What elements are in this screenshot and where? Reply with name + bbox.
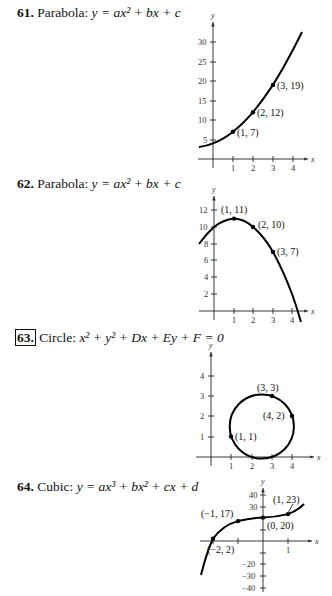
y-tick-label: 15 — [198, 96, 207, 106]
x-tick-label: 3 — [270, 461, 274, 471]
y-tick-label: 8 — [204, 239, 208, 249]
data-point — [251, 225, 255, 229]
point-label: (3, 3) — [257, 382, 279, 394]
graph-63: x y 1 2 3 4 1 2 3 4 (1, 1) (3, 3) (4, 2) — [196, 341, 321, 471]
data-point — [211, 537, 215, 541]
x-tick-label: 1 — [229, 461, 233, 471]
graph-64: x y 1 40 30 −20 −30 −40 (−1, 17) (1, 23)… — [200, 477, 319, 593]
y-tick-label: 2 — [204, 289, 208, 299]
y-axis-label: y — [211, 185, 216, 194]
point-label: (−2, 2) — [207, 544, 234, 556]
y-tick-label: 4 — [204, 272, 209, 282]
y-tick-label: 40 — [249, 490, 258, 500]
data-point — [271, 83, 275, 87]
x-tick-label: 4 — [290, 315, 295, 325]
y-tick-label: 30 — [198, 37, 207, 47]
y-tick-label: 10 — [198, 115, 207, 125]
y-axis-label: y — [208, 341, 213, 350]
point-label: (1, 23) — [273, 494, 300, 506]
data-point — [229, 434, 233, 438]
data-point — [232, 216, 236, 220]
y-tick-label: −40 — [242, 583, 255, 593]
data-point — [271, 250, 275, 254]
y-tick-label: 30 — [249, 502, 258, 512]
x-tick-label: 1 — [231, 163, 235, 173]
point-label: (2, 10) — [258, 219, 285, 231]
y-tick-label: −30 — [242, 571, 255, 581]
x-tick-label: 4 — [291, 163, 296, 173]
data-point — [270, 394, 274, 398]
x-tick-label: 3 — [271, 163, 275, 173]
y-tick-label: 4 — [200, 371, 205, 381]
point-label: (0, 20) — [267, 520, 294, 532]
x-axis-label: x — [314, 537, 319, 546]
graph-61: x y 1 2 3 4 5 10 15 20 25 30 (1, 7) (2, … — [198, 11, 315, 173]
graphs-canvas: x y 1 2 3 4 5 10 15 20 25 30 (1, 7) (2, … — [0, 0, 332, 596]
y-axis-label: y — [260, 477, 265, 486]
data-point — [251, 110, 255, 114]
point-label: (4, 2) — [263, 410, 285, 422]
point-label: (1, 11) — [221, 204, 247, 216]
x-axis-label: x — [310, 307, 315, 316]
graph-62: x y 1 2 3 4 2 4 6 8 10 12 (1, 11) (2, 10… — [199, 185, 315, 325]
x-axis-label: x — [316, 453, 321, 462]
x-tick-label: 4 — [290, 461, 295, 471]
y-tick-label: 6 — [204, 255, 208, 265]
point-label: (3, 7) — [277, 246, 299, 258]
x-tick-label: 1 — [286, 545, 290, 555]
data-point — [231, 130, 235, 134]
x-tick-label: 1 — [232, 315, 236, 325]
y-tick-label: 3 — [200, 391, 204, 401]
y-tick-label: 25 — [198, 57, 207, 67]
y-tick-label: 5 — [203, 135, 207, 145]
point-label: (1, 1) — [235, 431, 257, 443]
data-point — [236, 519, 240, 523]
y-tick-label: 1 — [200, 432, 204, 442]
y-tick-label: 2 — [200, 411, 204, 421]
x-tick-label: 2 — [251, 315, 255, 325]
y-tick-label: −20 — [242, 559, 255, 569]
y-axis-label: y — [210, 11, 215, 20]
point-label: (−1, 17) — [201, 508, 233, 520]
point-label: (1, 7) — [237, 127, 259, 139]
point-label: (2, 12) — [257, 107, 284, 119]
data-point — [290, 414, 294, 418]
data-point — [261, 515, 265, 519]
y-tick-label: 12 — [199, 205, 208, 215]
y-tick-label: 20 — [198, 76, 207, 86]
x-tick-label: 2 — [251, 163, 255, 173]
point-label: (3, 19) — [277, 80, 304, 92]
x-axis-label: x — [310, 155, 315, 164]
y-tick-label: 10 — [199, 222, 208, 232]
x-tick-label: 3 — [271, 315, 275, 325]
x-tick-label: 2 — [250, 461, 254, 471]
circle-curve — [230, 394, 294, 458]
